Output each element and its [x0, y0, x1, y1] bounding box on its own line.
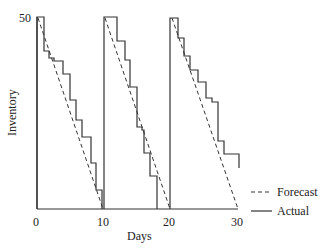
- y-axis-label: Inventory: [5, 89, 19, 136]
- actual-series: [37, 17, 239, 209]
- x-axis-label: Days: [127, 229, 152, 243]
- chart: 50 0 10 20 30 Inventory Days Forecast Ac…: [0, 0, 332, 251]
- x-tick-0: 0: [33, 215, 39, 229]
- x-tick-30: 30: [231, 215, 243, 229]
- legend-actual-label: Actual: [277, 204, 310, 218]
- x-tick-20: 20: [163, 215, 175, 229]
- y-tick-50: 50: [19, 11, 31, 25]
- forecast-series: [38, 18, 238, 209]
- x-tick-10: 10: [97, 215, 109, 229]
- legend: Forecast Actual: [251, 185, 318, 218]
- legend-forecast-label: Forecast: [277, 185, 318, 199]
